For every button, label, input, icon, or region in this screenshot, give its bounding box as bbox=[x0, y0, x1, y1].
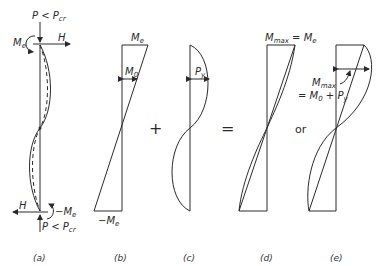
moment-line bbox=[94, 45, 148, 211]
me-label: Me bbox=[131, 32, 144, 45]
mmax-leader bbox=[340, 71, 350, 84]
caption-d: (d) bbox=[260, 253, 273, 263]
inflection-point bbox=[39, 127, 42, 130]
bottom-load-label: P < Pcr bbox=[42, 221, 77, 234]
or-text: or bbox=[295, 123, 307, 136]
panel-a-column: P < Pcr Me H H −Me P < Pcr (a) bbox=[13, 10, 77, 263]
py-label: Py bbox=[195, 66, 206, 79]
caption-b: (b) bbox=[114, 253, 127, 263]
beam-column-moment-diagram: P < Pcr Me H H −Me P < Pcr (a) Me M0 −Me… bbox=[0, 0, 378, 266]
bottom-shear-label: H bbox=[19, 200, 27, 211]
top-shear-label: H bbox=[58, 32, 66, 43]
mmax-me-label: Mmax = Me bbox=[265, 32, 317, 45]
panel-c-secondary-moment: Py (c) bbox=[172, 45, 209, 263]
mmax-formula: = M0 + Py bbox=[298, 90, 348, 103]
panel-b-primary-moment: Me M0 −Me (b) bbox=[94, 32, 148, 263]
bottom-moment-label: −Me bbox=[55, 206, 76, 219]
caption-a: (a) bbox=[33, 253, 46, 263]
top-load-label: P < Pcr bbox=[32, 10, 67, 23]
caption-e: (e) bbox=[330, 253, 343, 263]
panel-d-total-moment: Mmax = Me (d) bbox=[239, 32, 317, 263]
neg-me-label: −Me bbox=[98, 215, 119, 228]
plus-operator: + bbox=[149, 119, 162, 138]
panel-e-total-moment: Mmax = M0 + Py (e) bbox=[298, 45, 372, 263]
mmax-label: Mmax bbox=[312, 77, 337, 90]
top-moment-label: Me bbox=[13, 37, 26, 50]
equals-operator: = bbox=[221, 119, 234, 138]
caption-c: (c) bbox=[183, 253, 195, 263]
m0-label: M0 bbox=[125, 66, 139, 79]
